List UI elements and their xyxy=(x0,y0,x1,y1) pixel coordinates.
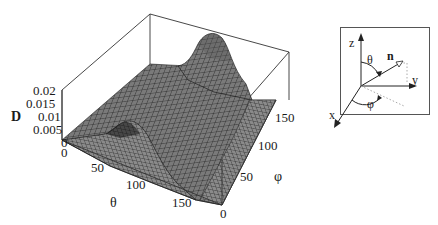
inset-theta-label: θ xyxy=(367,54,373,67)
inset-y-label: y xyxy=(412,74,418,87)
inset-z-label: z xyxy=(349,37,354,50)
inset-n-label: n xyxy=(387,50,394,63)
figure: 0.02 0.015 0.01 0.005 0 D 0 50 100 150 θ… xyxy=(0,0,438,225)
inset-phi-label: φ xyxy=(367,98,374,111)
x-arrow-icon xyxy=(334,119,341,128)
inset-x-label: x xyxy=(329,109,335,122)
coordinate-inset xyxy=(0,0,438,225)
